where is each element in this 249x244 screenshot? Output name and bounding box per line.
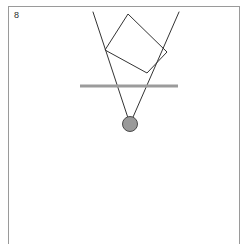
figure-diagram — [0, 0, 249, 244]
figure-panel: 8 — [0, 0, 249, 244]
pendulum-bob-circle — [123, 117, 138, 132]
tilted-rectangle — [105, 14, 167, 73]
left-ray — [93, 12, 130, 124]
